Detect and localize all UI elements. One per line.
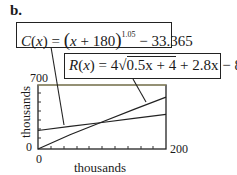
x-max-label: 200 (170, 142, 188, 157)
revenue-coef: 4 (111, 57, 119, 73)
cost-constant: 33.365 (151, 33, 192, 49)
y-min-label: 0 (26, 140, 32, 155)
cost-equation-box: C(x) = (x + x + 180180)1.05 − 33.365 (16, 22, 172, 48)
x-min-label: 0 (36, 152, 42, 167)
y-max-label: 700 (30, 71, 48, 86)
revenue-tail: + 2.8x − 8 (180, 57, 237, 73)
y-axis-title: thousands (18, 86, 34, 138)
revenue-equation-box: R(x) = 4√0.5x + 4 + 2.8x − 8 (64, 53, 221, 79)
x-axis-title: thousands (74, 160, 126, 175)
cost-exponent: 1.05 (121, 30, 135, 39)
revenue-radicand: 0.5x + 4 (127, 56, 177, 73)
